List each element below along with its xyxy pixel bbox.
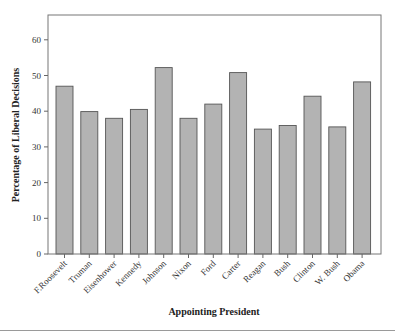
x-tick-label: Obama (341, 258, 366, 283)
y-tick-label: 50 (32, 71, 42, 81)
y-axis: 0102030405060 (32, 35, 48, 259)
x-tick-label: Johnson (140, 258, 168, 286)
x-tick-label: Carter (220, 258, 243, 281)
bottom-divider (0, 330, 395, 331)
x-tick-label: W. Bush (313, 258, 342, 287)
bar (329, 127, 346, 254)
y-tick-label: 60 (32, 35, 42, 45)
x-tick-label: F.Roosevelt (32, 258, 69, 295)
bar (254, 129, 271, 254)
bar (180, 118, 197, 254)
y-tick-label: 20 (32, 178, 42, 188)
x-tick-label: Nixon (170, 258, 193, 281)
bar (304, 96, 321, 254)
x-tick-label: Bush (272, 258, 293, 279)
y-tick-label: 40 (32, 106, 42, 116)
bar (205, 104, 222, 254)
bar (155, 68, 172, 254)
x-tick-label: Kennedy (113, 258, 143, 288)
x-tick-label: Reagan (241, 258, 268, 285)
bar (279, 126, 296, 255)
bars-group (56, 68, 371, 254)
x-axis: F.RooseveltTrumanEisenhowerKennedyJohnso… (32, 254, 367, 295)
bar (130, 109, 147, 254)
bar (354, 82, 371, 254)
bar (106, 118, 123, 254)
bar-chart: 0102030405060 F.RooseveltTrumanEisenhowe… (0, 0, 395, 334)
x-axis-title: Appointing President (168, 306, 260, 317)
y-axis-title: Percentage of Liberal Decisions (10, 68, 21, 203)
y-tick-label: 30 (32, 142, 42, 152)
y-tick-label: 0 (37, 249, 42, 259)
bar (56, 86, 73, 254)
x-tick-label: Ford (199, 258, 218, 277)
bar (230, 73, 247, 254)
y-tick-label: 10 (32, 213, 42, 223)
bar (81, 112, 98, 254)
